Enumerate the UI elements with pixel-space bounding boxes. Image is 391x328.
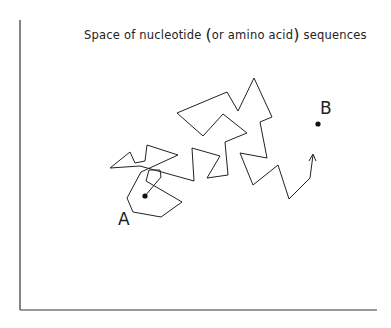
evolutionary-walk-path — [110, 78, 313, 217]
point-a-dot — [142, 193, 147, 198]
title-suffix: sequences — [300, 28, 367, 42]
title-prefix: Space of nucleotide — [84, 28, 205, 42]
point-a-label: A — [118, 209, 130, 229]
title-open-paren: ( — [205, 25, 211, 44]
title-close-paren: ) — [293, 25, 299, 44]
diagram-title: Space of nucleotide (or amino acid) sequ… — [84, 24, 367, 43]
sequence-space-diagram — [0, 0, 391, 328]
point-b-label: B — [320, 98, 332, 118]
title-middle: or amino acid — [212, 28, 293, 42]
point-b-dot — [315, 121, 320, 126]
